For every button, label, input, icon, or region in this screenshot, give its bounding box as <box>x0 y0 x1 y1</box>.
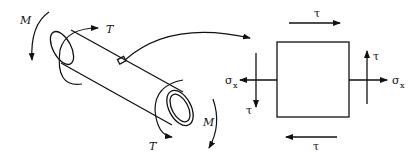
stress-diagram: M T T M τ τ τ τ σ x σ x <box>0 0 419 161</box>
shaft <box>46 28 199 130</box>
connector-arrow-icon <box>125 32 250 60</box>
tau-top-label: τ <box>314 7 320 20</box>
torque-right-label: T <box>149 140 158 153</box>
sigma-left-label: σ <box>225 74 233 87</box>
torque-right-arrow-icon <box>155 80 183 137</box>
moment-left-arrow-icon <box>32 12 49 60</box>
stress-element <box>240 23 387 137</box>
moment-left-label: M <box>19 14 32 27</box>
moment-left: M <box>19 12 49 60</box>
moment-right-label: M <box>202 116 215 129</box>
sigma-right-subscript: x <box>400 81 405 90</box>
tau-bottom-label: τ <box>313 140 319 153</box>
torque-left-label: T <box>106 23 115 36</box>
sigma-right-label: σ <box>392 74 400 87</box>
sigma-left-subscript: x <box>233 81 238 90</box>
torque-left: T <box>59 23 115 84</box>
tau-left-label: τ <box>246 104 252 117</box>
tau-right-label: τ <box>373 50 379 63</box>
shaft-right-end-inner <box>166 91 194 125</box>
moment-right: M <box>202 99 217 148</box>
shaft-left-end <box>46 28 79 68</box>
element-square <box>277 42 349 117</box>
shaft-right-end <box>161 86 198 130</box>
shaft-top-edge <box>71 30 183 92</box>
